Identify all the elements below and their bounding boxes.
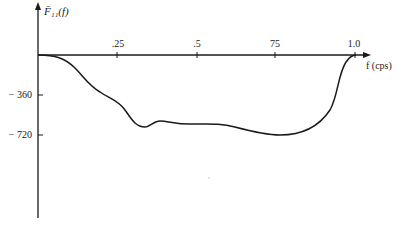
y-tick-label: − 360 — [2, 89, 32, 100]
y-tick-marks — [38, 95, 43, 135]
y-axis-arrow-icon — [35, 2, 41, 10]
x-axis-label: f (cps) — [366, 60, 392, 71]
chart-canvas — [0, 0, 402, 226]
x-tick-label: .25 — [112, 38, 125, 49]
x-axis-arrow-icon — [363, 52, 371, 58]
y-tick-label: − 720 — [2, 129, 32, 140]
y-axis-label: F̄₁₁(f) — [44, 5, 69, 17]
speck — [208, 177, 209, 178]
x-tick-label: 1.0 — [348, 38, 361, 49]
x-tick-label: .5 — [193, 38, 201, 49]
x-tick-label: 75 — [270, 38, 280, 49]
phase-curve — [38, 55, 356, 135]
